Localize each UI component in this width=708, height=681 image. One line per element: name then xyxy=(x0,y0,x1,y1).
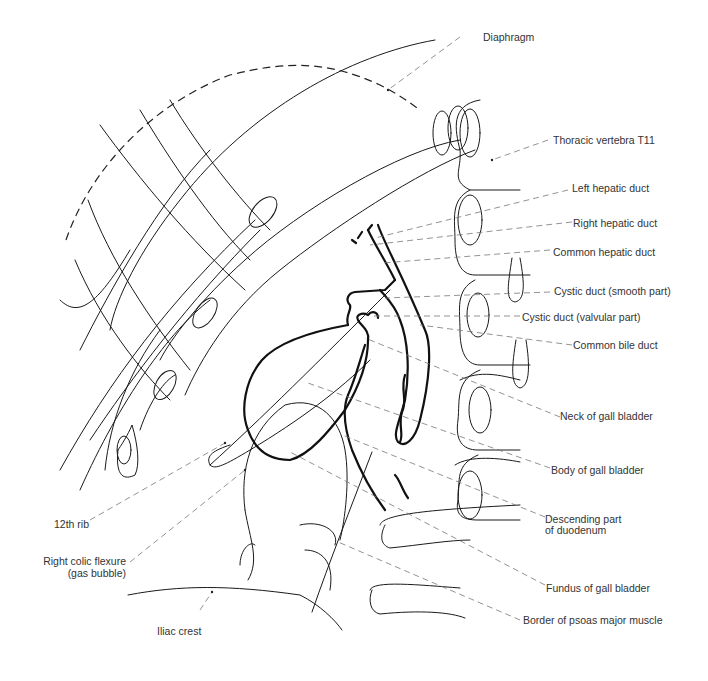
iliac-crest-outline xyxy=(128,588,342,631)
label-body-gall-bladder: Body of gall bladder xyxy=(551,464,644,476)
label-cystic-duct-smooth: Cystic duct (smooth part) xyxy=(554,285,671,297)
label-common-hepatic-duct: Common hepatic duct xyxy=(553,246,655,258)
label-iliac-crest: Iliac crest xyxy=(157,625,201,637)
label-descending-duodenum-2: of duodenum xyxy=(545,524,606,536)
label-thoracic-vertebra: Thoracic vertebra T11 xyxy=(553,134,655,146)
label-12th-rib: 12th rib xyxy=(54,518,89,530)
label-right-colic-flexure-2: (gas bubble) xyxy=(38,567,126,579)
label-right-colic-flexure-1: Right colic flexure xyxy=(38,555,126,567)
label-common-bile-duct: Common bile duct xyxy=(573,339,658,351)
label-cystic-duct-valvular: Cystic duct (valvular part) xyxy=(522,311,640,323)
label-right-hepatic-duct: Right hepatic duct xyxy=(573,217,657,229)
label-fundus-gall-bladder: Fundus of gall bladder xyxy=(546,582,650,594)
label-diaphragm: Diaphragm xyxy=(483,31,534,43)
label-psoas-border: Border of psoas major muscle xyxy=(523,614,662,626)
label-neck-gall-bladder: Neck of gall bladder xyxy=(560,410,653,422)
anatomical-diagram: Diaphragm Thoracic vertebra T11 Left hep… xyxy=(0,0,708,681)
diaphragm-outline xyxy=(66,65,420,240)
label-left-hepatic-duct: Left hepatic duct xyxy=(572,182,649,194)
